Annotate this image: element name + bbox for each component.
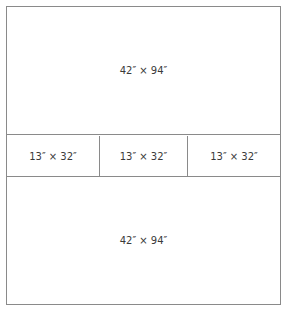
top-panel-label: 42″ × 94″ [120,65,168,76]
middle-cell-1: 13″ × 32″ [7,136,100,176]
bottom-panel-label: 42″ × 94″ [120,235,168,246]
layout-diagram: 42″ × 94″ 13″ × 32″ 13″ × 32″ 13″ × 32″ … [6,6,281,305]
middle-cell-label: 13″ × 32″ [120,151,168,162]
middle-cell-3: 13″ × 32″ [188,136,280,176]
bottom-panel: 42″ × 94″ [7,177,280,304]
middle-cell-label: 13″ × 32″ [29,151,77,162]
middle-row: 13″ × 32″ 13″ × 32″ 13″ × 32″ [7,136,280,177]
middle-cell-label: 13″ × 32″ [210,151,258,162]
top-panel: 42″ × 94″ [7,7,280,135]
middle-cell-2: 13″ × 32″ [100,136,188,176]
